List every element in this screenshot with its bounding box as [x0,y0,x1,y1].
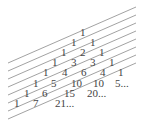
triangle-entry: 20... [87,87,107,99]
triangle-entry: 21... [55,97,75,109]
triangle-entry: 1 [99,46,105,58]
diagonal-line-2 [8,23,136,79]
triangle-entry: 4 [62,66,68,78]
triangle-entry: 1 [71,36,77,48]
diagonal-line-0 [8,7,136,63]
triangle-entry: 3 [71,56,77,68]
triangle-numbers: 1111211331146411510105...161520...1721..… [14,26,129,109]
triangle-entry: 1 [109,56,115,68]
triangle-entry: 3 [90,56,96,68]
triangle-entry: 1 [24,87,30,99]
triangle-entry: 6 [42,87,48,99]
triangle-entry: 1 [80,26,86,38]
triangle-entry: 5... [115,77,129,89]
triangle-entry: 1 [33,77,39,89]
triangle-entry: 1 [14,97,20,109]
triangle-entry: 5 [51,77,57,89]
triangle-entry: 1 [52,56,58,68]
triangle-entry: 2 [80,46,86,58]
pascal-triangle-diagram: 1111211331146411510105...161520...1721..… [0,0,143,135]
triangle-entry: 7 [33,97,39,109]
triangle-entry: 1 [90,36,96,48]
triangle-entry: 1 [43,66,49,78]
triangle-entry: 1 [61,46,67,58]
